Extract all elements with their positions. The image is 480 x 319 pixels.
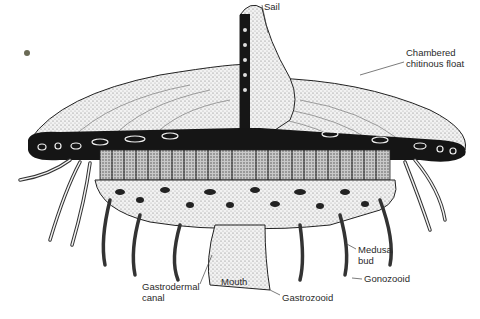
label-sail: Sail — [264, 2, 280, 12]
label-gonozooid: Gonozooid — [364, 274, 410, 284]
label-gastrozooid: Gastrozooid — [282, 293, 333, 303]
label-gastrodermal-canal-1: Gastrodermal — [142, 282, 200, 292]
label-chambered-float-2: chitinous float — [406, 59, 464, 69]
label-medusa-bud-2: bud — [358, 256, 374, 266]
label-mouth: Mouth — [221, 277, 247, 287]
speck — [24, 50, 30, 56]
label-medusa-bud-1: Medusa — [358, 245, 392, 255]
chambers — [100, 150, 390, 180]
label-chambered-float-1: Chambered — [406, 48, 456, 58]
label-gastrodermal-canal-2: canal — [142, 293, 165, 303]
gastrodermal-tissue — [95, 180, 396, 229]
